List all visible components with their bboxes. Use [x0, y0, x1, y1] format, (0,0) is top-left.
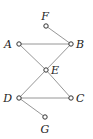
node-d	[17, 96, 21, 100]
graph-diagram: FABEDCG	[0, 0, 93, 139]
node-a	[17, 42, 21, 46]
node-label-f: F	[40, 10, 49, 23]
edge-f-b	[46, 26, 71, 44]
edge-d-g	[19, 98, 45, 117]
node-label-d: D	[2, 92, 12, 105]
node-e	[44, 68, 48, 72]
node-label-e: E	[50, 64, 59, 77]
node-label-a: A	[3, 38, 12, 51]
node-b	[69, 42, 73, 46]
edge-a-e	[19, 44, 46, 70]
node-f	[44, 24, 48, 28]
node-label-g: G	[41, 123, 50, 136]
node-g	[43, 115, 47, 119]
edge-e-d	[19, 70, 46, 98]
node-label-b: B	[75, 38, 84, 51]
node-label-c: C	[76, 92, 85, 105]
nodes	[17, 24, 73, 119]
node-c	[69, 96, 73, 100]
